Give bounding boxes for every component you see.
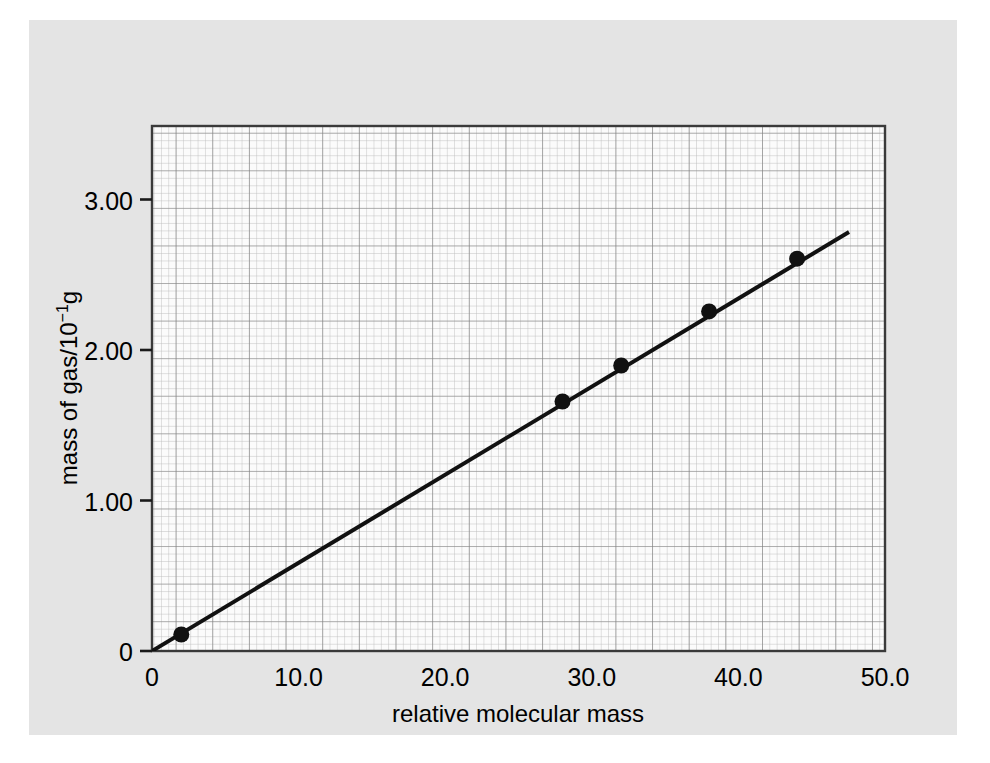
chart-panel: 0 1.00 2.00 3.00 0 10.0 20.0 30.0 40.0 5…: [29, 20, 957, 735]
y-tick-label: 3.00: [84, 187, 133, 215]
y-axis-title-tail: g: [55, 291, 82, 304]
data-point: [789, 251, 805, 267]
x-tick-label: 20.0: [421, 663, 470, 691]
data-point: [613, 358, 629, 374]
major-gridlines: [152, 126, 885, 651]
figure-root: 0 1.00 2.00 3.00 0 10.0 20.0 30.0 40.0 5…: [0, 0, 990, 763]
y-axis-title-main: mass of gas/10: [55, 322, 82, 485]
data-point: [555, 394, 571, 410]
chart-svg: 0 1.00 2.00 3.00 0 10.0 20.0 30.0 40.0 5…: [29, 20, 957, 735]
x-tick-label: 0: [145, 663, 159, 691]
data-point: [173, 627, 189, 643]
x-tick-label: 50.0: [861, 663, 910, 691]
y-tick-label: 1.00: [84, 488, 133, 516]
data-point: [701, 303, 717, 319]
y-axis-ticks: 0 1.00 2.00 3.00: [84, 187, 152, 667]
x-axis-ticks: 0 10.0 20.0 30.0 40.0 50.0: [145, 663, 909, 691]
plot-area: [152, 126, 885, 651]
y-axis-title: mass of gas/10−1g: [54, 291, 82, 485]
x-axis-title: relative molecular mass: [392, 700, 644, 727]
y-tick-label: 0: [119, 638, 133, 666]
x-tick-label: 30.0: [567, 663, 616, 691]
x-tick-label: 40.0: [714, 663, 763, 691]
svg-text:mass of gas/10−1g: mass of gas/10−1g: [54, 291, 82, 485]
y-tick-label: 2.00: [84, 337, 133, 365]
y-axis-title-superscript: −1: [54, 304, 71, 322]
x-tick-label: 10.0: [274, 663, 323, 691]
